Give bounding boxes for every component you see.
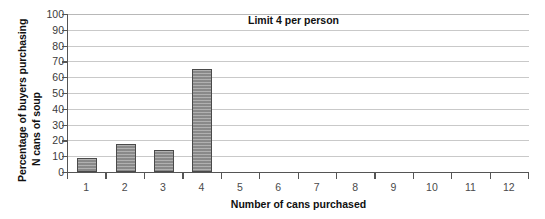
bar-4 [192, 69, 212, 172]
x-tick-mark-1 [105, 173, 106, 179]
bar-2 [116, 144, 136, 172]
x-tick-mark-6 [298, 173, 299, 179]
x-tick-label-2: 2 [122, 181, 128, 193]
x-tick-label-4: 4 [199, 181, 205, 193]
y-tick-label-20: 20 [40, 134, 64, 146]
bar-1 [77, 158, 97, 172]
x-tick-label-8: 8 [352, 181, 358, 193]
x-tick-mark-0 [67, 173, 68, 179]
x-axis-title: Number of cans purchased [0, 198, 545, 210]
x-tick-mark-end [528, 173, 529, 179]
y-tick-label-0: 0 [40, 166, 64, 178]
plot-area [67, 14, 529, 173]
x-tick-label-1: 1 [83, 181, 89, 193]
x-tick-mark-7 [336, 173, 337, 179]
x-tick-mark-4 [221, 173, 222, 179]
bar-3 [154, 150, 174, 172]
y-axis-title-line-1: Percentage of buyers purchasing [16, 19, 28, 182]
x-tick-mark-11 [490, 173, 491, 179]
y-tick-label-100: 100 [40, 8, 64, 20]
y-tick-label-50: 50 [40, 87, 64, 99]
y-tick-label-90: 90 [40, 24, 64, 36]
x-tick-label-9: 9 [391, 181, 397, 193]
x-tick-mark-2 [144, 173, 145, 179]
x-tick-label-7: 7 [314, 181, 320, 193]
y-tick-label-60: 60 [40, 71, 64, 83]
bar-chart-figure: Percentage of buyers purchasing N cans o… [0, 0, 545, 219]
x-tick-mark-5 [259, 173, 260, 179]
x-tick-label-6: 6 [275, 181, 281, 193]
x-tick-mark-8 [374, 173, 375, 179]
y-tick-label-40: 40 [40, 103, 64, 115]
y-tick-label-70: 70 [40, 55, 64, 67]
y-axis-tick-labels: 0102030405060708090100 [40, 14, 64, 172]
x-tick-label-5: 5 [237, 181, 243, 193]
x-tick-mark-3 [182, 173, 183, 179]
chart-annotation-limit: Limit 4 per person [248, 14, 339, 26]
x-tick-mark-9 [413, 173, 414, 179]
y-tick-label-30: 30 [40, 119, 64, 131]
x-tick-label-11: 11 [465, 181, 476, 193]
x-tick-label-12: 12 [503, 181, 515, 193]
x-tick-mark-10 [451, 173, 452, 179]
x-tick-label-10: 10 [426, 181, 438, 193]
bars-group [68, 14, 529, 172]
y-tick-label-10: 10 [40, 150, 64, 162]
x-tick-label-3: 3 [160, 181, 166, 193]
y-tick-label-80: 80 [40, 40, 64, 52]
